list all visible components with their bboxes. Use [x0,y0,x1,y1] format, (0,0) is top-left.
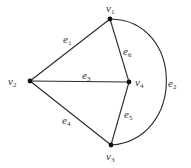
vertex-v1 [108,17,113,22]
edge-e3 [30,81,129,82]
label-v2: v2 [8,75,17,89]
label-e3: e3 [82,69,91,83]
label-e1: e1 [63,33,72,47]
edge-e4 [30,81,111,145]
label-e5: e5 [124,108,133,122]
label-v1: v1 [106,2,115,16]
vertex-v2 [28,79,33,84]
label-e2: e2 [168,77,177,91]
label-v4: v4 [135,76,144,90]
label-e4: e4 [62,114,71,128]
label-e6: e6 [123,45,132,59]
vertex-labels: v1 v2 v3 v4 [8,2,144,164]
vertex-v4 [127,80,132,85]
edge-e1 [30,19,110,81]
graph-diagram: v1 v2 v3 v4 e1 e2 e3 e4 e5 e6 [0,0,191,168]
label-v3: v3 [106,150,115,164]
edges [30,19,166,145]
vertex-v3 [109,143,114,148]
